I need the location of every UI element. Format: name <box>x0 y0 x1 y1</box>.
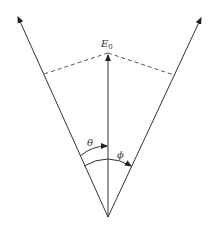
left-axis-arrow <box>18 17 108 217</box>
phi-label: ϕ <box>117 149 124 160</box>
theta-label: θ <box>87 137 93 148</box>
left-projection-dashed-line <box>44 53 108 74</box>
right-axis-arrow <box>108 18 201 217</box>
polarization-angle-diagram: E0 θ ϕ <box>0 0 214 231</box>
theta-angle-arc <box>80 146 107 156</box>
field-label: E0 <box>100 38 113 51</box>
right-projection-dashed-line <box>108 53 174 75</box>
